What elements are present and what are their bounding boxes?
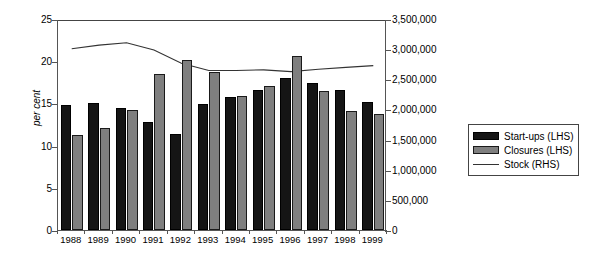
y-tick-mark-left — [52, 189, 58, 190]
stock-line-path — [72, 43, 374, 72]
x-tick-mark — [276, 230, 277, 234]
y-axis-left-ticks: 0510152025 — [20, 0, 52, 271]
bar-closures — [237, 96, 248, 230]
legend-swatch-closures-icon — [473, 146, 499, 154]
y-tick-label-right: 0 — [392, 226, 398, 236]
chart-figure: per cent 0510152025 0500,0001,000,0001,5… — [0, 0, 610, 271]
bar-closures — [100, 128, 111, 230]
x-tick-label: 1999 — [362, 234, 383, 245]
y-tick-label-left: 10 — [41, 142, 52, 152]
y-tick-label-right: 1,000,000 — [392, 166, 437, 176]
y-tick-mark-right — [385, 231, 391, 232]
legend-item[interactable]: Start-ups (LHS) — [473, 129, 573, 143]
plot-inner — [58, 21, 385, 230]
bar-startups — [335, 90, 346, 230]
y-tick-label-right: 500,000 — [392, 196, 428, 206]
legend-swatch-startups-icon — [473, 132, 499, 140]
y-tick-mark-left — [52, 104, 58, 105]
bar-closures — [292, 56, 303, 230]
x-tick-label: 1996 — [279, 234, 300, 245]
y-tick-label-right: 2,500,000 — [392, 75, 437, 85]
x-tick-label: 1992 — [170, 234, 191, 245]
legend-item-label: Start-ups (LHS) — [504, 131, 573, 142]
x-tick-mark — [304, 230, 305, 234]
x-tick-mark — [194, 230, 195, 234]
y-tick-label-right: 3,500,000 — [392, 15, 437, 25]
x-tick-mark — [249, 230, 250, 234]
legend-item[interactable]: Stock (RHS) — [473, 157, 573, 171]
x-tick-mark — [359, 230, 360, 234]
y-tick-mark-left — [52, 20, 58, 21]
y-tick-label-right: 2,000,000 — [392, 105, 437, 115]
y-tick-mark-left — [52, 231, 58, 232]
legend-item-label: Stock (RHS) — [504, 159, 560, 170]
legend-item-label: Closures (LHS) — [504, 145, 572, 156]
legend-swatch-stock-icon — [473, 160, 499, 168]
legend-item[interactable]: Closures (LHS) — [473, 143, 573, 157]
plot-area — [57, 20, 386, 231]
y-tick-label-left: 20 — [41, 57, 52, 67]
x-tick-label: 1993 — [197, 234, 218, 245]
x-tick-label: 1995 — [252, 234, 273, 245]
y-tick-mark-left — [52, 147, 58, 148]
bar-startups — [225, 97, 236, 230]
x-tick-mark — [331, 230, 332, 234]
y-tick-label-left: 25 — [41, 15, 52, 25]
bar-startups — [143, 122, 154, 230]
x-tick-label: 1994 — [225, 234, 246, 245]
bar-closures — [127, 110, 138, 230]
y-tick-mark-right — [385, 80, 391, 81]
x-tick-label: 1997 — [307, 234, 328, 245]
bar-closures — [374, 114, 385, 230]
bar-closures — [72, 135, 83, 230]
chart-legend: Start-ups (LHS)Closures (LHS)Stock (RHS) — [468, 124, 579, 176]
bar-startups — [307, 83, 318, 230]
bar-closures — [182, 60, 193, 230]
x-tick-mark — [222, 230, 223, 234]
x-tick-label: 1988 — [60, 234, 81, 245]
x-tick-mark — [167, 230, 168, 234]
bar-closures — [209, 72, 220, 230]
x-tick-label: 1990 — [115, 234, 136, 245]
y-tick-mark-right — [385, 50, 391, 51]
y-tick-label-left: 15 — [41, 99, 52, 109]
bar-startups — [61, 105, 72, 230]
y-tick-label-right: 3,000,000 — [392, 45, 437, 55]
bar-startups — [362, 102, 373, 230]
y-tick-mark-right — [385, 110, 391, 111]
x-tick-mark — [112, 230, 113, 234]
bar-startups — [198, 104, 209, 230]
y-tick-mark-right — [385, 141, 391, 142]
bar-startups — [170, 134, 181, 230]
bar-startups — [280, 78, 291, 230]
x-tick-label: 1991 — [142, 234, 163, 245]
x-tick-label: 1989 — [88, 234, 109, 245]
bar-closures — [319, 91, 330, 230]
y-tick-mark-right — [385, 171, 391, 172]
x-axis-ticks: 1988198919901991199219931994199519961997… — [57, 234, 386, 250]
bar-startups — [253, 90, 264, 230]
bar-closures — [154, 74, 165, 230]
y-tick-mark-right — [385, 20, 391, 21]
y-tick-label-right: 1,500,000 — [392, 136, 437, 146]
y-tick-mark-left — [52, 62, 58, 63]
bar-startups — [116, 108, 127, 230]
x-tick-label: 1998 — [334, 234, 355, 245]
x-tick-mark — [84, 230, 85, 234]
y-tick-mark-right — [385, 201, 391, 202]
bar-closures — [346, 111, 357, 230]
bar-closures — [264, 86, 275, 230]
bar-startups — [88, 103, 99, 230]
x-tick-mark — [139, 230, 140, 234]
